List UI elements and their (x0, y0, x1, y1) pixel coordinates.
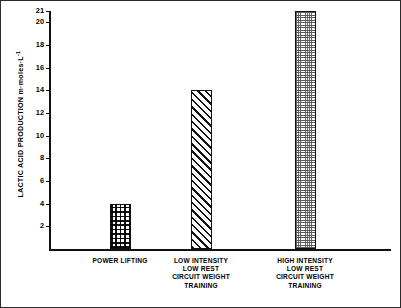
y-axis-line (49, 11, 51, 249)
y-tick-mark (46, 90, 51, 91)
y-tick-mark (46, 45, 51, 46)
y-axis-unit-exponent: -1 (15, 51, 21, 56)
bar-1 (110, 204, 131, 249)
chart-figure: LACTIC ACID PRODUCTION m·moles·L-1 24681… (0, 0, 401, 308)
x-category-label-2: LOW INTENSITY LOW REST CIRCUIT WEIGHT TR… (146, 257, 256, 290)
y-tick-label: 21 (36, 7, 44, 14)
bar-3 (295, 11, 316, 249)
y-tick-mark (46, 113, 51, 114)
plot-area: 246810121416182021 (49, 11, 391, 249)
y-tick-label: 2 (40, 223, 44, 230)
y-tick-mark (46, 226, 51, 227)
y-axis-title-text: LACTIC ACID PRODUCTION m·moles·L (17, 56, 25, 198)
y-tick-label: 8 (40, 155, 44, 162)
y-tick-mark (46, 204, 51, 205)
x-category-label-3: HIGH INTENSITY LOW REST CIRCUIT WEIGHT T… (250, 257, 360, 290)
y-tick-mark (46, 11, 51, 12)
y-tick-mark (46, 136, 51, 137)
y-tick-label: 10 (36, 132, 44, 139)
y-tick-label: 14 (36, 87, 44, 94)
y-axis-title: LACTIC ACID PRODUCTION m·moles·L-1 (15, 19, 25, 229)
y-tick-label: 6 (40, 177, 44, 184)
y-tick-label: 20 (36, 19, 44, 26)
y-tick-label: 4 (40, 200, 44, 207)
y-tick-label: 16 (36, 64, 44, 71)
bar-2 (191, 90, 212, 249)
y-tick-mark (46, 22, 51, 23)
y-tick-mark (46, 68, 51, 69)
y-tick-mark (46, 181, 51, 182)
y-tick-mark (46, 158, 51, 159)
y-tick-label: 18 (36, 41, 44, 48)
y-tick-label: 12 (36, 109, 44, 116)
x-axis-line (49, 249, 391, 251)
